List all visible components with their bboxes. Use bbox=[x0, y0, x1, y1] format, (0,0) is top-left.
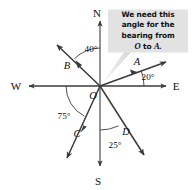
bearing-diagram-figure: N S E W O A B C D 40° 20° 75° 25° We nee… bbox=[0, 0, 192, 190]
label-angle-25: 25° bbox=[109, 140, 122, 150]
callout-line-2: angle for the bbox=[110, 20, 186, 30]
label-ray-b: B bbox=[64, 60, 71, 71]
label-angle-75: 75° bbox=[58, 111, 71, 121]
label-angle-20: 20° bbox=[142, 72, 155, 82]
callout-pointer-tail bbox=[103, 49, 134, 83]
callout-connector: to bbox=[141, 42, 154, 51]
ray-d bbox=[100, 86, 144, 155]
callout-line-4: O to A. bbox=[110, 41, 186, 52]
label-ray-a: A bbox=[133, 56, 141, 67]
label-east: E bbox=[173, 80, 180, 92]
callout-line-3: bearing from bbox=[110, 31, 186, 41]
callout-annotation: We need this angle for the bearing from … bbox=[110, 10, 186, 53]
label-north: N bbox=[93, 7, 101, 19]
label-south: S bbox=[95, 175, 101, 187]
arc-25 bbox=[100, 126, 119, 130]
callout-line-1: We need this bbox=[110, 10, 186, 20]
label-origin: O bbox=[89, 90, 97, 101]
label-ray-c: C bbox=[73, 128, 81, 139]
label-west: W bbox=[11, 80, 22, 92]
label-ray-d: D bbox=[121, 126, 130, 137]
callout-target-label: A. bbox=[154, 41, 162, 51]
label-angle-40: 40° bbox=[85, 44, 98, 54]
